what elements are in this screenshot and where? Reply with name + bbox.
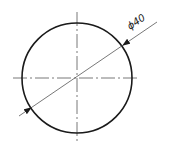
dimension-arrow-lower <box>19 108 31 116</box>
dimension-label: ϕ40 <box>125 12 147 32</box>
diameter-drawing: ϕ40 <box>0 0 171 149</box>
dimension-line <box>19 22 157 116</box>
dimension-arrow-upper <box>123 37 135 45</box>
